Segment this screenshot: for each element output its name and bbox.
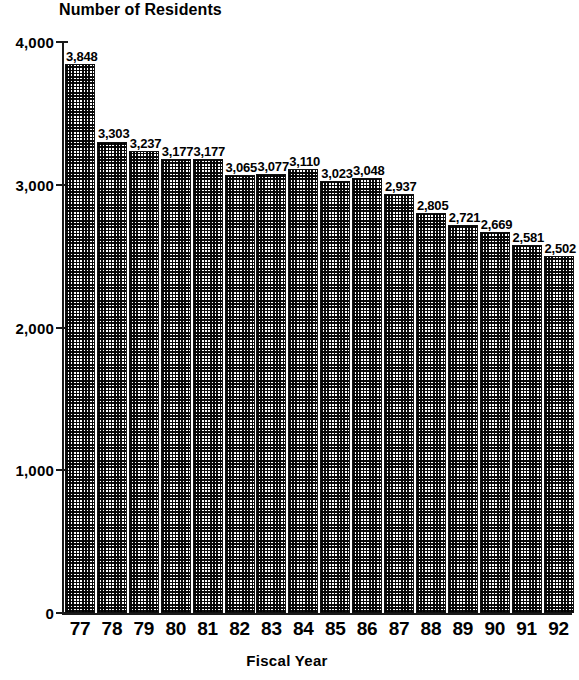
bar [193,159,223,613]
bar [512,245,542,613]
bar [320,181,350,613]
bar-value-label: 2,669 [481,217,513,232]
bar [384,194,414,613]
bar-value-label: 3,065 [226,160,258,175]
bar-value-label: 3,023 [321,166,353,181]
bar-value-label: 2,502 [545,241,577,256]
bar [352,178,382,613]
bar [480,232,510,613]
bar-value-label: 2,805 [417,198,449,213]
x-axis-title: Fiscal Year [0,652,574,669]
bar-value-label: 3,848 [66,49,98,64]
bar [256,174,286,613]
bar-value-label: 3,177 [194,144,226,159]
bar-value-label: 3,177 [162,144,194,159]
bar-value-label: 3,110 [289,154,320,169]
bar-value-label: 3,237 [130,136,162,151]
bar [288,169,318,613]
bar [65,64,95,613]
x-axis-tick-label: 92 [539,618,579,640]
bar [161,159,191,613]
bar [129,151,159,613]
bar [225,175,255,613]
bar [416,213,446,613]
bar-value-label: 3,303 [98,126,130,141]
bar [544,256,574,613]
bar [97,142,127,614]
bar [448,225,478,613]
bar-value-label: 3,077 [257,159,289,174]
bar-value-label: 2,581 [513,230,545,245]
bar-value-label: 3,048 [353,163,385,178]
bar-value-label: 2,721 [449,210,481,225]
bar-value-label: 2,937 [385,179,417,194]
